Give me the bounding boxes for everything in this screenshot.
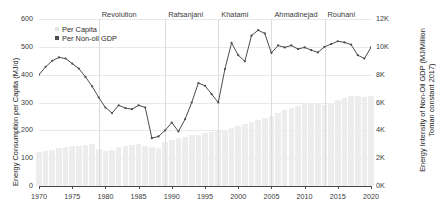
data-point [224, 68, 226, 70]
y-axis-left-tick-label: 400 [7, 70, 33, 79]
x-axis-tickmark [39, 186, 40, 189]
era-label: Rafsanjani [168, 10, 203, 19]
x-axis-tick-label: 2020 [354, 192, 388, 201]
x-axis-tick-label: 2000 [221, 192, 255, 201]
y-axis-left-tick-label: 0 [7, 181, 33, 190]
legend: Per Capita Per Non-oil GDP [55, 25, 117, 43]
data-point [138, 104, 140, 106]
x-axis-tick-label: 2015 [321, 192, 355, 201]
y-axis-left-tick-label: 500 [7, 42, 33, 51]
data-point [197, 82, 199, 84]
legend-item-per-capita: Per Capita [55, 25, 117, 34]
data-point [270, 52, 272, 54]
plot-area [39, 19, 371, 186]
legend-label-per-capita: Per Capita [62, 25, 97, 34]
x-axis-tickmark [105, 186, 106, 189]
data-point [330, 43, 332, 45]
data-point [51, 60, 53, 62]
y-axis-right-tick-label: 2K [376, 153, 402, 162]
data-point [363, 57, 365, 59]
data-point [144, 106, 146, 108]
y-axis-right-tick-label: 8K [376, 70, 402, 79]
era-label: Revolution [102, 10, 137, 19]
y-axis-right-title-line2: Toman constant 2017) [428, 14, 436, 186]
y-axis-right-tick-label: 10K [376, 42, 402, 51]
x-axis-tickmark [371, 186, 372, 189]
y-axis-right-title: Energy Intensity of Non-Oil GDP (MJ/Mill… [419, 14, 436, 186]
data-point [310, 49, 312, 51]
y-axis-left-tick-label: 200 [7, 125, 33, 134]
data-point [171, 121, 173, 123]
data-point [323, 46, 325, 48]
y-axis-left-tick-label: 600 [7, 14, 33, 23]
x-axis-tickmark [271, 186, 272, 189]
x-axis-tick-label: 1985 [122, 192, 156, 201]
x-axis-tickmark [305, 186, 306, 189]
legend-item-per-non-oil-gdp: Per Non-oil GDP [55, 34, 117, 43]
data-point [277, 44, 279, 46]
data-point [104, 106, 106, 108]
x-axis-tickmark [205, 186, 206, 189]
data-point [45, 66, 47, 68]
data-point [151, 137, 153, 139]
data-point [357, 54, 359, 56]
data-point [118, 104, 120, 106]
era-label: Rouhani [328, 10, 356, 19]
data-point [350, 44, 352, 46]
data-point [337, 40, 339, 42]
x-axis-tickmark [139, 186, 140, 189]
data-point [211, 93, 213, 95]
legend-swatch-per-capita [55, 27, 59, 31]
data-point [257, 29, 259, 31]
data-point [230, 42, 232, 44]
data-point [177, 130, 179, 132]
era-label: Ahmadinejad [274, 10, 317, 19]
data-point [297, 48, 299, 50]
line-series-per-non-oil-gdp [39, 19, 371, 186]
data-point [131, 108, 133, 110]
data-point [71, 62, 73, 64]
x-axis-tickmark [72, 186, 73, 189]
x-axis-tick-label: 1980 [88, 192, 122, 201]
x-axis-tick-label: 1975 [55, 192, 89, 201]
y-axis-right-tick-label: 4K [376, 125, 402, 134]
legend-swatch-per-non-oil-gdp [55, 36, 59, 40]
x-axis-tickmark [238, 186, 239, 189]
data-point [317, 51, 319, 53]
data-point [184, 118, 186, 120]
data-point [217, 101, 219, 103]
data-point [237, 54, 239, 56]
data-point [244, 60, 246, 62]
data-point [124, 107, 126, 109]
x-axis-tick-label: 1970 [22, 192, 56, 201]
data-point [84, 76, 86, 78]
x-axis-tick-label: 1990 [155, 192, 189, 201]
y-axis-left-tick-label: 300 [7, 98, 33, 107]
x-axis-tick-label: 2005 [254, 192, 288, 201]
legend-label-per-non-oil-gdp: Per Non-oil GDP [62, 34, 117, 43]
data-point [78, 67, 80, 69]
data-point [191, 101, 193, 103]
data-point [157, 135, 159, 137]
y-axis-right-tick-label: 0K [376, 181, 402, 190]
data-point [284, 46, 286, 48]
data-point [304, 46, 306, 48]
data-point [264, 32, 266, 34]
data-point [98, 96, 100, 98]
data-point [204, 85, 206, 87]
era-label: Khatami [221, 10, 248, 19]
data-point [91, 85, 93, 87]
data-point [111, 112, 113, 114]
data-point [58, 56, 60, 58]
x-axis-tick-label: 2010 [288, 192, 322, 201]
y-axis-right-tick-label: 6K [376, 98, 402, 107]
data-point [250, 35, 252, 37]
data-point [290, 44, 292, 46]
data-point [164, 129, 166, 131]
data-point [64, 57, 66, 59]
y-axis-right-tick-label: 12K [376, 14, 402, 23]
y-axis-left-tick-label: 100 [7, 153, 33, 162]
data-point [343, 41, 345, 43]
x-axis-tickmark [172, 186, 173, 189]
